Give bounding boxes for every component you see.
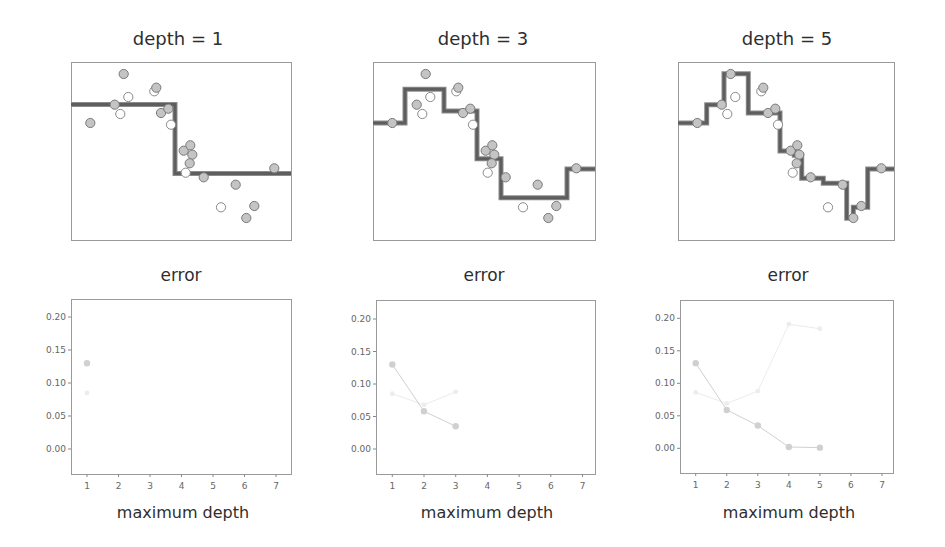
train-point — [188, 150, 197, 159]
x-tick-label: 4 — [485, 481, 491, 491]
x-tick-label: 6 — [242, 481, 248, 491]
train-error-point — [786, 444, 792, 450]
train-point — [572, 164, 581, 173]
x-tick-label: 7 — [580, 481, 586, 491]
train-error-point — [693, 360, 699, 366]
train-point — [110, 100, 119, 109]
y-tick-label: 0.15 — [46, 345, 66, 355]
y-tick-label: 0.10 — [46, 378, 66, 388]
x-tick-label: 5 — [817, 480, 823, 490]
train-point — [533, 180, 542, 189]
train-point — [501, 173, 510, 182]
step-fit-line — [678, 74, 894, 219]
fit-panel-2 — [373, 63, 596, 241]
test-point — [124, 92, 133, 101]
train-point — [838, 180, 847, 189]
train-point — [185, 159, 194, 168]
x-tick-label: 3 — [453, 481, 459, 491]
test-point — [216, 203, 225, 212]
train-point — [544, 213, 553, 222]
test-point — [426, 92, 435, 101]
step-fit-line — [373, 89, 595, 197]
train-point — [795, 150, 804, 159]
train-error-point — [755, 422, 761, 428]
y-tick-label: 0.00 — [351, 444, 371, 454]
test-point — [788, 168, 797, 177]
x-tick-label: 2 — [724, 480, 730, 490]
y-tick-label: 0.15 — [655, 346, 675, 356]
test-point — [116, 109, 125, 118]
plot-frame — [72, 300, 292, 475]
x-tick-label: 7 — [879, 480, 885, 490]
test-error-point — [724, 401, 729, 406]
train-point — [270, 164, 279, 173]
step-fit-line — [71, 105, 291, 174]
test-point — [518, 203, 527, 212]
error-panel-1: 0.200.150.100.050.001234567 — [46, 300, 292, 492]
train-error-point — [389, 361, 395, 367]
y-tick-label: 0.05 — [655, 411, 675, 421]
test-point — [418, 109, 427, 118]
train-point — [164, 104, 173, 113]
train-point — [693, 118, 702, 127]
y-tick-label: 0.00 — [46, 444, 66, 454]
train-point — [199, 173, 208, 182]
test-error-point — [422, 402, 427, 407]
error-panel-3: 0.200.150.100.050.001234567 — [655, 301, 894, 491]
step-fit-outline — [678, 74, 894, 219]
test-point — [468, 120, 477, 129]
plot-frame — [377, 301, 596, 475]
train-point — [412, 100, 421, 109]
fit-panel-1 — [71, 63, 292, 241]
train-error-point — [817, 444, 823, 450]
train-point — [86, 118, 95, 127]
test-error-point — [818, 326, 823, 331]
test-point — [731, 92, 740, 101]
y-tick-label: 0.10 — [351, 379, 371, 389]
x-tick-label: 6 — [548, 481, 554, 491]
train-point — [242, 213, 251, 222]
y-tick-label: 0.05 — [46, 411, 66, 421]
x-tick-label: 3 — [147, 481, 153, 491]
fit-panel-3 — [678, 63, 895, 241]
x-tick-label: 3 — [755, 480, 761, 490]
y-tick-label: 0.05 — [351, 412, 371, 422]
train-error-point — [453, 423, 459, 429]
train-point — [454, 83, 463, 92]
train-point — [771, 104, 780, 113]
y-tick-label: 0.20 — [351, 314, 371, 324]
train-point — [717, 100, 726, 109]
train-point — [119, 69, 128, 78]
x-tick-label: 2 — [116, 481, 122, 491]
x-tick-label: 1 — [693, 480, 699, 490]
test-point — [166, 120, 175, 129]
x-tick-label: 1 — [84, 481, 90, 491]
train-error-point — [84, 360, 90, 366]
x-tick-label: 1 — [389, 481, 395, 491]
train-point — [152, 83, 161, 92]
test-point — [723, 109, 732, 118]
test-point — [823, 203, 832, 212]
test-point — [773, 120, 782, 129]
train-error-point — [421, 408, 427, 414]
y-tick-label: 0.20 — [655, 313, 675, 323]
x-tick-label: 2 — [421, 481, 427, 491]
y-tick-label: 0.10 — [655, 378, 675, 388]
y-tick-label: 0.15 — [351, 347, 371, 357]
train-point — [490, 150, 499, 159]
train-point — [792, 159, 801, 168]
test-point — [483, 168, 492, 177]
test-error-point — [390, 391, 395, 396]
test-error-point — [453, 389, 458, 394]
x-tick-label: 7 — [273, 481, 279, 491]
train-point — [806, 173, 815, 182]
x-tick-label: 5 — [210, 481, 216, 491]
figure-canvas: 0.200.150.100.050.0012345670.200.150.100… — [0, 0, 945, 547]
train-point — [250, 201, 259, 210]
train-error-line — [696, 363, 820, 448]
test-error-point — [755, 389, 760, 394]
train-point — [388, 118, 397, 127]
error-panel-2: 0.200.150.100.050.001234567 — [351, 301, 596, 492]
test-error-point — [85, 391, 90, 396]
test-point — [181, 168, 190, 177]
